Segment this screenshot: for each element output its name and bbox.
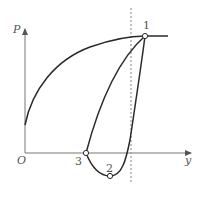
outer-curve	[25, 36, 168, 125]
point-1-label: 1	[143, 19, 150, 32]
curve-2-to-1	[110, 36, 145, 176]
point-2-label: 2	[106, 162, 113, 175]
x-axis-label: y	[184, 154, 192, 167]
point-3-marker	[83, 150, 88, 155]
origin-label: O	[17, 154, 26, 167]
point-1-marker	[142, 33, 147, 38]
y-axis-label: P	[12, 23, 21, 36]
point-3-label: 3	[75, 155, 82, 168]
phase-diagram: P y O 1 2 3	[0, 0, 204, 197]
